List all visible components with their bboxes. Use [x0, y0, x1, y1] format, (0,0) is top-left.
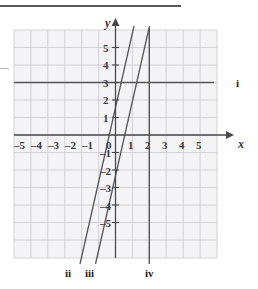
x-tick-label-2: 2 — [145, 140, 151, 151]
y-axis-label: y — [105, 17, 110, 29]
x-tick-label-5: 5 — [196, 140, 202, 151]
y-tick-label-neg3: –3 — [100, 183, 111, 194]
x-tick-label-neg4: –4 — [31, 140, 42, 151]
curve-label-i: i — [236, 78, 239, 89]
coordinate-plane-figure: y x 5 4 3 2 1 –1 –2 –3 –4 –5 –5 –4 –3 –2… — [0, 0, 258, 289]
x-tick-label-3: 3 — [162, 140, 168, 151]
y-tick-label-2: 2 — [103, 95, 109, 106]
curve-label-ii: ii — [65, 268, 71, 279]
x-axis-label: x — [238, 138, 244, 150]
x-tick-label-neg1: –1 — [82, 140, 93, 151]
y-tick-label-neg2: –2 — [100, 166, 111, 177]
y-tick-label-5: 5 — [103, 43, 109, 54]
x-tick-label-neg5: –5 — [14, 140, 25, 151]
y-tick-label-1: 1 — [103, 113, 109, 124]
x-tick-label-neg3: –3 — [48, 140, 59, 151]
x-axis-arrow-icon — [226, 131, 234, 139]
curve-label-iii: iii — [85, 268, 94, 279]
y-tick-label-3: 3 — [103, 78, 109, 89]
x-tick-label-0: 0 — [106, 140, 112, 151]
y-tick-label-neg4: –4 — [100, 201, 111, 212]
x-tick-label-4: 4 — [179, 140, 185, 151]
x-tick-label-1: 1 — [128, 140, 134, 151]
curve-label-iv: iv — [145, 268, 154, 279]
y-tick-label-4: 4 — [103, 60, 109, 71]
y-tick-label-neg5: –5 — [100, 218, 111, 229]
x-tick-label-neg2: –2 — [65, 140, 76, 151]
y-axis-arrow-icon — [112, 18, 120, 26]
